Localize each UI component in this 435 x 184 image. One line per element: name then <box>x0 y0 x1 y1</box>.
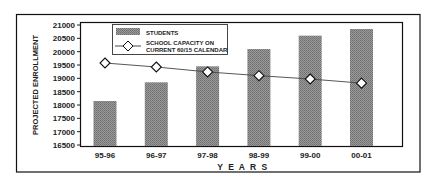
x-tick-label: 00-01 <box>351 151 372 160</box>
x-tick-label: 97-98 <box>197 151 218 160</box>
capacity-diamond-marker <box>100 58 110 68</box>
x-tick-label: 95-96 <box>95 151 116 160</box>
y-tick-label: 19500 <box>53 61 76 70</box>
legend-capacity-label-line1: SCHOOL CAPACITY ON <box>146 40 214 46</box>
legend-capacity-label-line2: CURRENT 60/15 CALENDAR <box>146 47 228 53</box>
x-tick-label: 99-00 <box>300 151 321 160</box>
x-tick-label: 96-97 <box>146 151 167 160</box>
y-tick-label: 17500 <box>53 114 76 123</box>
y-tick-label: 16500 <box>53 141 76 150</box>
y-tick-label: 19000 <box>53 74 76 83</box>
y-tick-label: 20000 <box>53 48 76 57</box>
y-tick-label: 20500 <box>53 34 76 43</box>
legend-students-label: STUDENTS <box>146 30 178 36</box>
legend: STUDENTSSCHOOL CAPACITY ONCURRENT 60/15 … <box>113 25 229 55</box>
students-bar <box>94 101 117 146</box>
students-bar <box>299 36 322 146</box>
students-bar <box>145 82 168 146</box>
x-axis-label: Y E A R S <box>217 162 268 172</box>
y-tick-label: 17000 <box>53 128 76 137</box>
students-bar <box>196 66 219 146</box>
students-bar <box>247 49 270 146</box>
y-tick-label: 18000 <box>53 101 76 110</box>
y-axis-label: PROJECTED ENROLLMENT <box>31 35 40 135</box>
capacity-diamond-marker <box>151 62 161 72</box>
enrollment-chart: 1650017000175001800018500190001950020000… <box>0 0 435 184</box>
legend-students-swatch <box>116 28 140 35</box>
y-tick-label: 18500 <box>53 88 76 97</box>
x-tick-label: 98-99 <box>249 151 270 160</box>
capacity-line <box>105 63 362 83</box>
y-tick-label: 21000 <box>53 21 76 30</box>
